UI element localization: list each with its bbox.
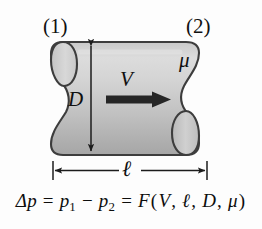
velocity-label: V [120,69,133,90]
viscosity-label: μ [179,50,190,71]
diameter-label: D [68,89,83,110]
equation-arg-diameter: D [202,190,216,211]
figure-canvas: (1) (2) μ D V ℓ Δp = p1 − p2 = F(V, ℓ, D… [0,0,262,229]
equation-minus: − [81,190,94,211]
equation-p2: p [99,190,109,211]
equation-p1-sub: 1 [69,199,76,214]
station-label-outlet: (2) [186,16,211,37]
equation-comma-2: , [190,190,197,211]
equation-arg-viscosity: μ [228,190,238,211]
equation-delta: Δ [16,190,27,211]
equation-p1: p [60,190,70,211]
pressure-drop-equation: Δp = p1 − p2 = F(V, ℓ, D, μ) [0,190,262,215]
equation-p2-sub: 2 [109,199,116,214]
equation-equals-1: = [42,190,55,211]
equation-arg-length: ℓ [182,190,190,211]
equation-p-delta: p [27,190,37,211]
equation-comma-3: , [216,190,223,211]
equation-arg-velocity: V [158,190,170,211]
equation-equals-2: = [120,190,133,211]
equation-close-paren: ) [238,190,247,211]
pipe-right-cut-face [172,111,199,155]
pipe-left-cut-face [51,42,77,86]
equation-comma-1: , [170,190,177,211]
length-label: ℓ [122,158,131,180]
equation-function-name: F [138,190,150,211]
station-label-inlet: (1) [43,16,68,37]
